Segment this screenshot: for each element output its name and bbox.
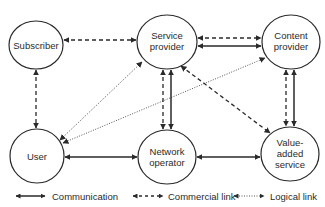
node-label: added (277, 148, 303, 159)
node-label: provider (274, 41, 308, 52)
node-label: Value- (277, 137, 304, 148)
legend-label: Logical link (270, 191, 317, 202)
node-label: Network (150, 146, 185, 157)
node-user: User (10, 129, 64, 183)
node-service-provider: Service provider (137, 15, 197, 69)
legend-label: Communication (52, 191, 118, 202)
legend-item-communication: Communication (16, 191, 118, 202)
node-content-provider: Content provider (262, 15, 320, 69)
legend-item-logical: Logical link (234, 191, 317, 202)
node-label: User (27, 151, 47, 162)
ecosystem-diagram: Subscriber Service provider Content prov… (0, 0, 325, 207)
node-label: provider (150, 41, 184, 52)
edge-user-service-logical (60, 62, 142, 140)
node-network-operator: Network operator (138, 130, 196, 184)
node-label: Service (151, 30, 183, 41)
legend: Communication Commercial link Logical li… (16, 191, 317, 202)
legend-label: Commercial link (168, 191, 236, 202)
node-value-added-service: Value- added service (261, 127, 319, 181)
node-label: service (275, 159, 305, 170)
node-label: Subscriber (13, 40, 58, 51)
node-label: operator (149, 157, 184, 168)
legend-item-commercial: Commercial link (133, 191, 236, 202)
node-subscriber: Subscriber (9, 21, 63, 69)
edge-service-valueadded-commercial (181, 66, 270, 133)
node-label: Content (274, 30, 308, 41)
